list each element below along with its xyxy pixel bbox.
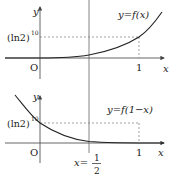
bottom-x-tick-1: 1	[136, 147, 142, 158]
top-origin-label: O	[30, 62, 38, 73]
bottom-y-tick-exp: 10	[31, 115, 39, 122]
half-label-num: 1	[94, 153, 100, 163]
bottom-curve-label: y=f(1−x)	[106, 104, 153, 115]
top-y-axis-label: y	[32, 6, 39, 17]
top-graph: y x O 1 (ln2) 10 y=f(x)	[5, 6, 169, 79]
half-label-den: 2	[94, 166, 100, 176]
symmetry-line-label: x= 1 2	[74, 153, 101, 176]
bottom-x-axis-label: x	[158, 147, 164, 158]
top-y-tick-base: (ln2)	[7, 32, 30, 43]
bottom-y-tick-base: (ln2)	[7, 118, 30, 129]
bottom-graph: y x O 1 (ln2) 10 y=f(1−x)	[5, 91, 164, 163]
top-y-tick-exp: 10	[31, 29, 39, 36]
top-curve-label: y=f(x)	[117, 9, 149, 20]
top-x-axis-label: x	[163, 63, 169, 74]
half-label-lhs: x=	[74, 157, 88, 168]
bottom-origin-label: O	[30, 147, 38, 158]
top-x-tick-1: 1	[136, 62, 142, 73]
function-graphs-figure: y x O 1 (ln2) 10 y=f(x) y x O 1 (ln2) 10…	[0, 0, 169, 183]
bottom-y-axis-label: y	[32, 91, 39, 102]
